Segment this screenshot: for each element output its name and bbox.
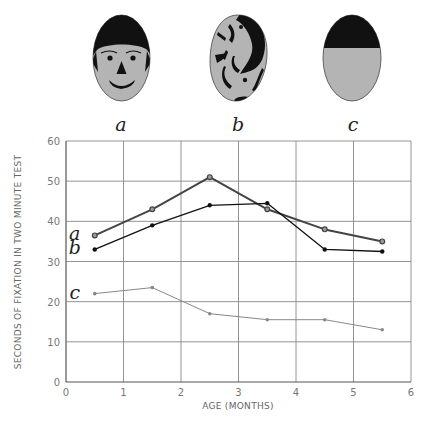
data-point — [93, 292, 97, 296]
series-lines: abc — [69, 175, 385, 332]
face-c — [320, 12, 385, 101]
y-axis-title: SECONDS OF FIXATION IN TWO MINUTE TEST — [13, 155, 23, 370]
series-a: a — [69, 175, 385, 245]
y-tick-label: 60 — [47, 136, 60, 147]
data-point — [207, 175, 212, 180]
data-point — [265, 201, 269, 205]
data-point — [380, 328, 384, 332]
face-b — [210, 14, 267, 102]
line-chart: 01234560102030405060 abc AGE (MONTHS) SE… — [13, 136, 414, 411]
data-point — [265, 207, 270, 212]
face-b-label: b — [232, 113, 244, 135]
face-c-label: c — [348, 113, 359, 135]
data-point — [150, 207, 155, 212]
x-tick-label: 4 — [293, 387, 299, 398]
y-tick-label: 10 — [47, 337, 60, 348]
figure: a b c 01234560102030405060 abc AGE (MONT… — [0, 0, 432, 425]
data-point — [323, 247, 327, 251]
x-tick-label: 5 — [350, 387, 356, 398]
y-tick-label: 30 — [47, 257, 60, 268]
data-point — [150, 223, 154, 227]
x-tick-label: 1 — [120, 387, 126, 398]
data-point — [208, 203, 212, 207]
y-tick-label: 0 — [54, 377, 60, 388]
data-point — [322, 227, 327, 232]
x-tick-label: 6 — [408, 387, 414, 398]
series-c-label: c — [69, 281, 80, 303]
data-point — [93, 247, 97, 251]
grid — [66, 141, 411, 382]
x-tick-label: 2 — [178, 387, 184, 398]
data-point — [208, 312, 212, 316]
data-point — [380, 239, 385, 244]
series-b: b — [69, 201, 385, 258]
y-tick-label: 40 — [47, 216, 60, 227]
y-tick-label: 20 — [47, 297, 60, 308]
x-axis-title: AGE (MONTHS) — [202, 401, 274, 411]
x-tick-label: 3 — [235, 387, 241, 398]
data-point — [92, 233, 97, 238]
series-c: c — [69, 281, 384, 332]
data-point — [380, 249, 384, 253]
face-a-left-eye — [107, 55, 112, 60]
face-a-right-eye — [130, 55, 135, 60]
face-a — [90, 10, 155, 101]
tick-labels: 01234560102030405060 — [47, 136, 414, 398]
y-tick-label: 50 — [47, 176, 60, 187]
face-a-label: a — [115, 113, 126, 135]
data-point — [150, 286, 154, 290]
data-point — [265, 318, 269, 322]
x-tick-label: 0 — [63, 387, 69, 398]
series-b-label: b — [69, 236, 81, 258]
data-point — [323, 318, 327, 322]
